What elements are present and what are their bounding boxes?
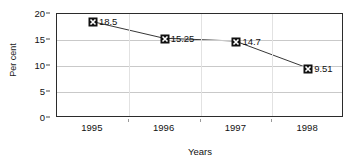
y-tick-label: 20 [34,8,45,19]
y-tick-label: 15 [34,34,45,45]
x-tick-mark [128,119,129,122]
data-point-label: 9.51 [314,62,333,73]
category-separator [272,14,273,116]
gridline [57,40,342,41]
x-tick-label: 1998 [297,122,318,133]
y-tick-label: 5 [40,86,45,97]
x-axis-title-text: Years [188,146,212,157]
data-point-marker[interactable] [304,64,313,73]
x-axis-title: Years [0,146,360,157]
x-tick-label: 1996 [153,122,174,133]
y-tick-mark [46,65,50,66]
x-axis-ticks: 1995199619971998 [56,119,343,135]
y-tick-mark [46,91,50,92]
chart-container: Per cent 05101520 18.515.2514.79.51 1995… [0,0,360,166]
data-point-marker[interactable] [232,37,241,46]
data-point-marker[interactable] [160,34,169,43]
x-tick-label: 1995 [81,122,102,133]
y-tick-mark [46,117,50,118]
y-axis-title-text: Per cent [8,43,18,77]
y-axis-ticks: 05101520 [22,13,50,117]
gridline [57,92,342,93]
data-point-marker[interactable] [88,17,97,26]
y-tick-mark [46,39,50,40]
y-axis-title: Per cent [2,0,24,120]
series-polyline [93,22,307,68]
data-point-label: 14.7 [242,35,261,46]
y-tick-mark [46,13,50,14]
y-tick-label: 10 [34,60,45,71]
data-point-label: 15.25 [171,32,195,43]
x-tick-mark [271,119,272,122]
gridline [57,66,342,67]
plot-area: 18.515.2514.79.51 [56,13,343,117]
x-tick-mark [200,119,201,122]
category-separator [129,14,130,116]
category-separator [201,14,202,116]
series-line-group [57,14,342,116]
data-point-label: 18.5 [99,15,118,26]
x-tick-label: 1997 [225,122,246,133]
y-tick-label: 0 [40,112,45,123]
